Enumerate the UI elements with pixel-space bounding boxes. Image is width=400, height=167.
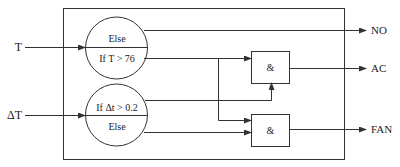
output-label-fan: FAN	[371, 123, 392, 135]
and-gate-ac: &	[252, 52, 290, 84]
input-label-t: T	[15, 40, 23, 54]
and-gate-fan-symbol: &	[267, 125, 275, 136]
comparator-dt-else-label: Else	[108, 121, 126, 132]
wire-dt-if-to-and-ac	[145, 83, 272, 101]
system-boundary-box	[64, 9, 345, 160]
wire-t-if-to-and-fan	[219, 59, 252, 121]
and-gate-fan: &	[252, 115, 290, 147]
comparator-t-condition-label: If T > 76	[99, 53, 135, 64]
and-gate-ac-symbol: &	[267, 62, 275, 73]
input-label-dt: ΔT	[7, 108, 23, 122]
comparator-dt: If Δt > 0.2 Else	[86, 84, 148, 146]
output-label-no: NO	[371, 24, 387, 36]
output-label-ac: AC	[371, 62, 386, 74]
logic-diagram: T ΔT Else If T > 76 If Δt > 0.2 Else NO …	[0, 0, 400, 167]
comparator-t-else-label: Else	[108, 33, 126, 44]
comparator-t: Else If T > 76	[86, 17, 148, 79]
comparator-dt-condition-label: If Δt > 0.2	[96, 102, 138, 113]
